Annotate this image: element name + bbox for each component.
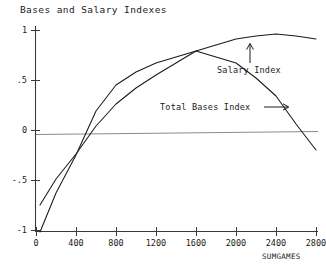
annotation-salary-index: Salary Index bbox=[217, 43, 281, 75]
x-tick-label: 0 bbox=[33, 238, 38, 248]
y-axis: 1.50-.5-1 bbox=[12, 25, 40, 235]
x-tick-label: 1200 bbox=[146, 238, 166, 248]
y-tick-label: -1 bbox=[17, 225, 27, 235]
x-tick-group: 040080012001600200024002800 bbox=[33, 227, 326, 248]
y-tick-label: -.5 bbox=[12, 175, 27, 185]
annotation-total-bases-index: Total Bases Index bbox=[160, 102, 289, 112]
x-axis-title: SUMGAMES bbox=[262, 252, 301, 261]
up-arrow-icon bbox=[247, 43, 254, 63]
x-tick-label: 800 bbox=[108, 238, 123, 248]
x-axis: 040080012001600200024002800 bbox=[33, 227, 326, 248]
x-tick-label: 2000 bbox=[226, 238, 246, 248]
zero-reference-line bbox=[36, 132, 318, 135]
chart-container: Bases and Salary Indexes 1.50-.5-1 04008… bbox=[0, 0, 326, 269]
y-tick-label: 0 bbox=[22, 125, 27, 135]
x-tick-label: 2800 bbox=[306, 238, 326, 248]
y-tick-label: .5 bbox=[17, 75, 27, 85]
annotation-label-salary-index: Salary Index bbox=[217, 65, 281, 75]
chart-canvas: Bases and Salary Indexes 1.50-.5-1 04008… bbox=[0, 0, 326, 269]
x-tick-label: 1600 bbox=[186, 238, 206, 248]
y-tick-label: 1 bbox=[22, 25, 27, 35]
x-tick-label: 400 bbox=[68, 238, 83, 248]
annotation-label-total-bases-index: Total Bases Index bbox=[160, 102, 250, 112]
x-tick-label: 2400 bbox=[266, 238, 286, 248]
right-arrow-icon bbox=[264, 104, 289, 110]
chart-title: Bases and Salary Indexes bbox=[20, 4, 167, 15]
